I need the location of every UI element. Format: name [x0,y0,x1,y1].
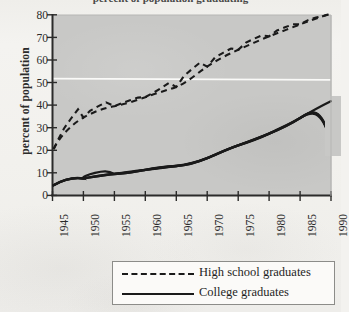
x-tick-label: 1975 [244,214,256,237]
legend-item-college: College graduates [113,283,336,304]
legend-swatch-solid-icon [122,293,194,295]
x-tick-label: 1980 [275,214,287,237]
x-tick-label: 1955 [120,214,132,237]
legend-label: College graduates [199,285,289,300]
legend-swatch-dashed-icon [122,273,194,275]
x-tick-label: 1945 [58,214,70,237]
x-tick-label: 1990 [337,214,349,237]
x-tick-label: 1970 [213,214,225,237]
legend-item-high-school: High school graduates [113,263,336,284]
x-tick-label: 1950 [89,214,101,237]
legend-label: High school graduates [199,265,311,280]
chart-legend: High school graduates College graduates [112,261,335,305]
x-tick-label: 1965 [182,214,194,237]
x-tick-label: 1960 [151,214,163,237]
x-tick-label: 1985 [306,214,318,237]
